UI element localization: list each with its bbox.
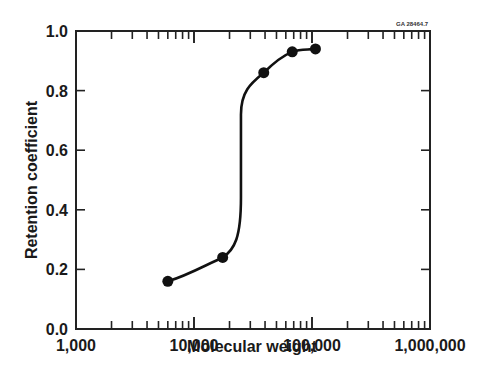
y-tick-label: 0.6 xyxy=(46,142,68,159)
data-point-marker xyxy=(287,46,298,57)
y-tick-label: 0.2 xyxy=(46,261,68,278)
y-tick-label: 1.0 xyxy=(46,23,68,40)
figure-id-annotation: GA 28464.7 xyxy=(396,21,429,27)
x-tick-label: 1,000,000 xyxy=(394,337,465,354)
y-axis-title: Retention coefficient xyxy=(23,100,40,259)
x-tick-label: 1,000 xyxy=(56,337,96,354)
y-axis-ticks xyxy=(76,91,430,270)
data-point-marker xyxy=(310,43,321,54)
y-tick-label: 0.8 xyxy=(46,83,68,100)
plot-frame xyxy=(76,31,430,329)
retention-chart: GA 28464.7 1,00010,000100,0001,000,000 0… xyxy=(0,0,490,392)
plot-border xyxy=(76,31,430,329)
data-point-marker xyxy=(217,252,228,263)
y-tick-label: 0.4 xyxy=(46,202,68,219)
x-axis-title: Molecular weight xyxy=(187,338,317,355)
data-point-marker xyxy=(162,276,173,287)
data-point-marker xyxy=(258,67,269,78)
fit-curve xyxy=(168,49,316,281)
y-axis-tick-labels: 0.00.20.40.60.81.0 xyxy=(46,23,68,338)
y-tick-label: 0.0 xyxy=(46,321,68,338)
